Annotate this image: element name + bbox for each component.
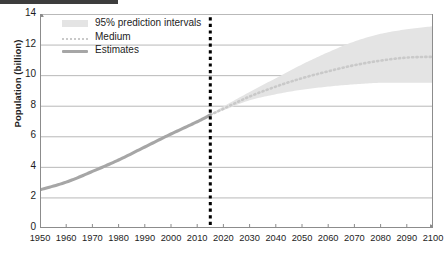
y-tick-label: 6: [10, 129, 36, 140]
x-tick-label: 2040: [265, 233, 286, 243]
x-tick-label: 2100: [423, 233, 444, 243]
legend-swatch-dotted-icon: [62, 38, 88, 40]
chart-figure: Population (billion) 02468101214 1950196…: [0, 0, 448, 256]
x-tick-label: 2090: [396, 233, 417, 243]
legend-item: Estimates: [62, 43, 201, 57]
y-tick-label: 0: [10, 221, 36, 232]
legend-swatch-band-icon: [62, 20, 88, 27]
x-tick-label: 2070: [344, 233, 365, 243]
prediction-interval-area: [210, 26, 433, 115]
x-tick-label: 1980: [108, 233, 129, 243]
x-tick-label: 2060: [318, 233, 339, 243]
x-tick-label: 2010: [187, 233, 208, 243]
legend-item: 95% prediction intervals: [62, 16, 201, 30]
y-tick-label: 8: [10, 99, 36, 110]
chart-legend: 95% prediction intervalsMediumEstimates: [62, 16, 201, 57]
x-tick-label: 1990: [134, 233, 155, 243]
legend-swatch-solid-icon: [62, 50, 88, 53]
x-tick-label: 1950: [30, 233, 51, 243]
y-tick-label: 2: [10, 190, 36, 201]
prediction-band: [210, 26, 433, 115]
x-tick-label: 2000: [161, 233, 182, 243]
y-tick-label: 12: [10, 38, 36, 49]
legend-item: Medium: [62, 30, 201, 44]
legend-label: Medium: [95, 31, 131, 42]
x-tick-label: 1960: [56, 233, 77, 243]
legend-label: Estimates: [95, 44, 139, 55]
x-axis-tick-labels: 1950196019701980199020002010202020302040…: [0, 233, 448, 251]
x-tick-label: 2050: [292, 233, 313, 243]
y-tick-label: 10: [10, 68, 36, 79]
estimates-line: [40, 115, 210, 190]
y-tick-label: 14: [10, 7, 36, 18]
y-axis-tick-labels: 02468101214: [8, 0, 36, 256]
x-tick-label: 2080: [370, 233, 391, 243]
x-tick-label: 2030: [239, 233, 260, 243]
x-tick-label: 1970: [82, 233, 103, 243]
x-tick-label: 2020: [213, 233, 234, 243]
legend-label: 95% prediction intervals: [95, 17, 201, 28]
y-tick-label: 4: [10, 160, 36, 171]
